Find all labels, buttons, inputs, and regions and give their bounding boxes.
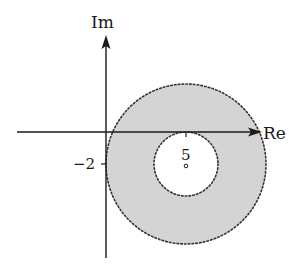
real-axis-label: Re xyxy=(263,123,286,143)
imaginary-tick-label: −2 xyxy=(73,155,95,173)
complex-plane-diagram: Im Re 5 −2 xyxy=(0,0,292,265)
real-tick-label: 5 xyxy=(181,146,191,164)
imaginary-axis-label: Im xyxy=(91,12,114,32)
